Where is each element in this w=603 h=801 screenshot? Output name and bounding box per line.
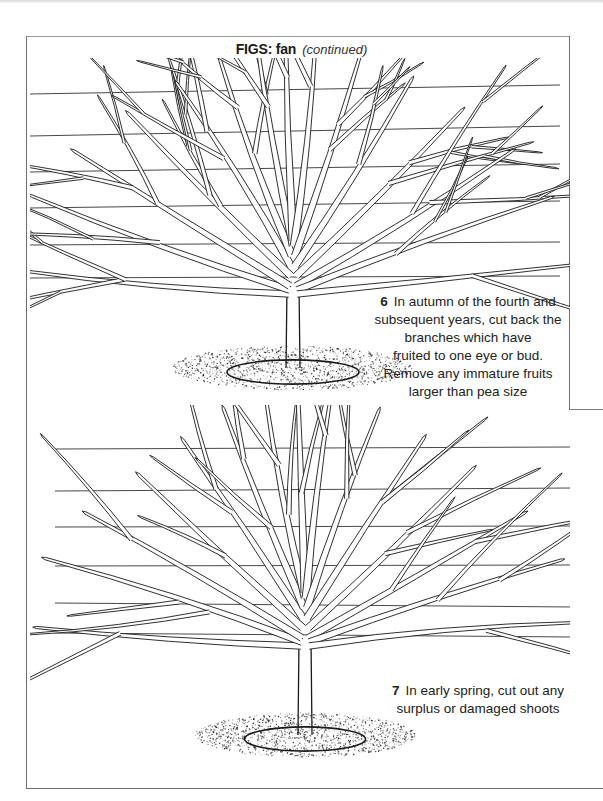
caption-6-line-5: Remove any immature fruits (348, 365, 588, 383)
caption-6-line-1: In autumn of the fourth and (394, 294, 556, 309)
page-title-main: FIGS: fan (236, 41, 296, 57)
caption-step-7: 7In early spring, cut out any surplus or… (378, 682, 578, 718)
page-title-suffix: (continued) (302, 42, 367, 57)
step-number-6: 6 (380, 294, 388, 309)
caption-step-6: 6In autumn of the fourth and subsequent … (348, 293, 588, 401)
step-number-7: 7 (392, 683, 400, 698)
caption-6-line-3: branches which have (348, 329, 588, 347)
caption-7-line-1: In early spring, cut out any (406, 683, 564, 698)
page-title: FIGS: fan(continued) (0, 41, 603, 57)
caption-7-line-2: surplus or damaged shoots (378, 700, 578, 718)
caption-6-line-6: larger than pea size (348, 383, 588, 401)
caption-6-line-2: subsequent years, cut back the (348, 311, 588, 329)
figure-frame-bottom-edge (26, 788, 603, 789)
branches (30, 405, 570, 710)
caption-6-line-4: fruited to one eye or bud. (348, 347, 588, 365)
page-header-rule (0, 0, 603, 3)
figure-frame-tab-line (569, 409, 603, 410)
